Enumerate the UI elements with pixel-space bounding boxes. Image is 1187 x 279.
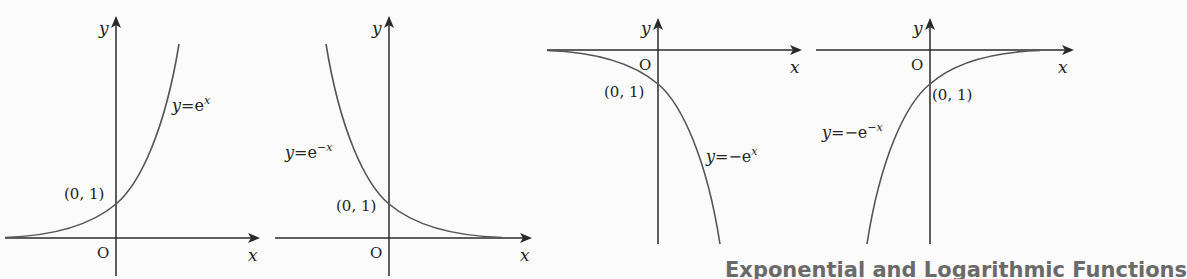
origin-label: O: [911, 56, 923, 74]
y-axis-label: y: [98, 18, 109, 38]
x-axis-label: x: [1058, 57, 1068, 77]
x-axis-label: x: [790, 57, 800, 77]
y-axis-label: y: [371, 18, 382, 38]
point-label: (0, 1): [604, 83, 644, 101]
panel-exp-x: y x O (0, 1) y=ex: [5, 18, 258, 276]
equation-label: y=−e−x: [821, 121, 884, 142]
equation-label: y=ex: [171, 94, 211, 115]
y-axis-label: y: [640, 18, 651, 38]
equation-label: y=e−x: [284, 141, 333, 162]
point-label: (0, 1): [932, 86, 972, 104]
panel-neg-exp-x: y x O (0, 1) y=−ex: [547, 18, 800, 244]
curve-neg-exp-neg-x: [867, 51, 1040, 245]
origin-label: O: [370, 244, 382, 262]
y-axis-label: y: [912, 18, 923, 38]
panel-neg-exp-neg-x: y x O (0, 1) y=−e−x: [816, 18, 1072, 244]
section-heading: Exponential and Logarithmic Functions: [725, 257, 1187, 279]
curve-neg-exp-x: [547, 51, 720, 245]
x-axis-label: x: [248, 245, 258, 265]
panel-exp-neg-x: y x O (0, 1) y=e−x: [275, 18, 530, 276]
equation-label: y=−ex: [705, 145, 758, 166]
point-label: (0, 1): [336, 197, 376, 215]
origin-label: O: [97, 244, 109, 262]
curve-exp-x: [5, 44, 179, 238]
x-axis-label: x: [520, 245, 530, 265]
origin-label: O: [639, 56, 651, 74]
point-label: (0, 1): [64, 185, 104, 203]
